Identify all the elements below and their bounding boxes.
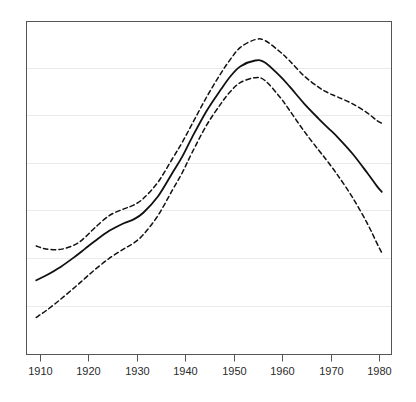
x-tick-label: 1970 [319, 365, 343, 377]
x-tick-label: 1950 [222, 365, 246, 377]
chart-background [0, 0, 416, 402]
x-tick-label: 1910 [28, 365, 52, 377]
x-tick-label: 1980 [367, 365, 391, 377]
x-tick-label: 1930 [125, 365, 149, 377]
x-tick-label: 1940 [173, 365, 197, 377]
figure-container: 1910 1920 1930 1940 1950 1960 1970 1980 [0, 0, 416, 402]
x-tick-label: 1960 [270, 365, 294, 377]
x-tick-label: 1920 [76, 365, 100, 377]
line-chart: 1910 1920 1930 1940 1950 1960 1970 1980 [0, 0, 416, 402]
